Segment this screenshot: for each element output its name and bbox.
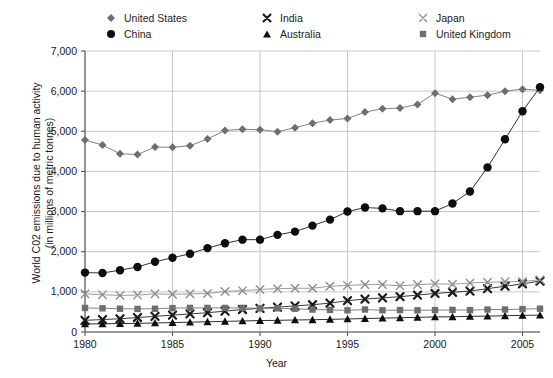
circle-marker-icon: [378, 204, 386, 212]
data-point-circle: [221, 239, 229, 247]
diamond-marker-icon: [256, 126, 264, 134]
square-marker-icon: [99, 305, 105, 311]
square-marker-icon: [432, 307, 438, 313]
data-point-square: [204, 305, 210, 311]
data-point-circle: [326, 215, 334, 223]
circle-marker-icon: [431, 207, 439, 215]
square-marker-icon: [416, 28, 430, 40]
data-point-diamond: [134, 151, 142, 159]
diamond-marker-icon: [186, 142, 194, 150]
circle-marker-icon: [81, 268, 89, 276]
data-point-diamond: [81, 136, 89, 144]
circle-marker-icon: [326, 215, 334, 223]
data-point-square: [362, 306, 368, 312]
data-point-square: [239, 305, 245, 311]
circle-marker-icon: [343, 207, 351, 215]
data-point-square: [187, 305, 193, 311]
circle-marker-icon: [116, 266, 124, 274]
square-marker-icon: [117, 306, 123, 312]
diamond-marker-icon: [151, 143, 159, 151]
x-tick-label: 1985: [161, 338, 185, 350]
y-axis-title-line2: (in millions of metric tonnes): [43, 53, 56, 313]
square-marker-icon: [239, 305, 245, 311]
diamond-marker-icon: [239, 125, 247, 133]
data-point-square: [134, 306, 140, 312]
square-marker-icon: [309, 306, 315, 312]
x-axis-title: Year: [0, 357, 553, 369]
diamond-marker-icon: [99, 141, 107, 149]
x-bold-marker-icon: [260, 12, 274, 24]
diamond-marker-icon: [81, 136, 89, 144]
circle-marker-icon: [448, 199, 456, 207]
data-point-circle: [536, 83, 544, 91]
data-point-circle: [483, 163, 491, 171]
legend-item-china: China: [104, 26, 187, 42]
data-point-square: [414, 307, 420, 313]
chart-legend: United States China India Australia: [104, 10, 524, 42]
square-marker-icon: [484, 306, 490, 312]
circle-marker-icon: [361, 203, 369, 211]
legend-column-1: United States China: [104, 10, 187, 42]
data-point-square: [327, 307, 333, 313]
data-point-circle: [291, 227, 299, 235]
legend-label-united-states: United States: [124, 12, 187, 24]
data-point-circle: [186, 250, 194, 258]
data-point-circle: [413, 207, 421, 215]
circle-marker-icon: [308, 221, 316, 229]
x-tick-label: 1995: [336, 338, 360, 350]
square-marker-icon: [292, 306, 298, 312]
series-line: [85, 87, 540, 273]
data-point-circle: [431, 207, 439, 215]
square-marker-icon: [414, 307, 420, 313]
legend-column-3: Japan United Kingdom: [416, 10, 511, 42]
data-point-diamond: [396, 104, 404, 112]
data-point-diamond: [466, 93, 474, 101]
diamond-marker-icon: [379, 105, 387, 113]
data-point-circle: [308, 221, 316, 229]
data-point-circle: [116, 266, 124, 274]
legend-item-australia: Australia: [260, 26, 321, 42]
circle-marker-icon: [186, 250, 194, 258]
legend-label-australia: Australia: [280, 28, 321, 40]
legend-label-china: China: [124, 28, 151, 40]
diamond-marker-icon: [204, 135, 212, 143]
square-marker-icon: [134, 306, 140, 312]
circle-marker-icon: [98, 269, 106, 277]
diamond-marker-icon: [484, 91, 492, 99]
circle-marker-icon: [413, 207, 421, 215]
data-point-circle: [256, 235, 264, 243]
circle-marker-icon: [104, 28, 118, 40]
data-point-circle: [361, 203, 369, 211]
square-marker-icon: [397, 307, 403, 313]
data-point-square: [222, 305, 228, 311]
diamond-marker-icon: [414, 100, 422, 108]
data-point-circle: [133, 263, 141, 271]
series-australia: [81, 311, 544, 327]
data-point-circle: [343, 207, 351, 215]
diamond-marker-icon: [466, 93, 474, 101]
square-marker-icon: [169, 305, 175, 311]
data-point-square: [502, 306, 508, 312]
data-point-circle: [518, 107, 526, 115]
data-point-square: [484, 306, 490, 312]
data-point-diamond: [291, 124, 299, 132]
diamond-marker-icon: [291, 124, 299, 132]
data-point-circle: [396, 207, 404, 215]
data-point-square: [309, 306, 315, 312]
data-point-circle: [151, 258, 159, 266]
circle-marker-icon: [133, 263, 141, 271]
y-axis-title: World C02 emissions due to human activit…: [30, 53, 60, 313]
square-marker-icon: [344, 307, 350, 313]
x-tick-label: 1980: [73, 338, 97, 350]
data-point-diamond: [151, 143, 159, 151]
data-point-diamond: [414, 100, 422, 108]
square-marker-icon: [257, 305, 263, 311]
circle-marker-icon: [483, 163, 491, 171]
square-marker-icon: [274, 305, 280, 311]
data-point-diamond: [484, 91, 492, 99]
y-axis-title-line1: World C02 emissions due to human activit…: [30, 53, 43, 313]
circle-marker-icon: [238, 235, 246, 243]
square-marker-icon: [327, 307, 333, 313]
square-marker-icon: [502, 306, 508, 312]
data-point-circle: [238, 235, 246, 243]
